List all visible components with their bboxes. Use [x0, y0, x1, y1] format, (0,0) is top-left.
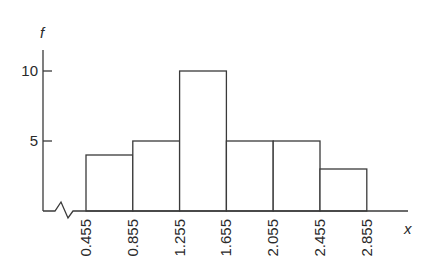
histogram-bar	[320, 169, 367, 211]
y-ticks: 510	[21, 62, 52, 149]
x-tick-label: 2.455	[311, 219, 328, 257]
y-tick-label: 5	[30, 132, 38, 149]
histogram-bar	[180, 71, 227, 211]
y-tick-label: 10	[21, 62, 38, 79]
histogram-bar	[86, 155, 133, 211]
histogram-bars	[86, 71, 367, 211]
x-tick-label: 0.455	[77, 219, 94, 257]
histogram-bar	[226, 141, 273, 211]
y-axis-label: f	[40, 24, 46, 41]
histogram-bar	[273, 141, 320, 211]
x-axis-break-zigzag	[43, 202, 86, 218]
x-tick-labels: 0.4550.8551.2551.6552.0552.4552.855	[77, 219, 375, 257]
histogram-chart: 510 0.4550.8551.2551.6552.0552.4552.855 …	[0, 0, 430, 275]
x-tick-label: 1.255	[171, 219, 188, 257]
x-tick-label: 2.855	[358, 219, 375, 257]
x-axis-label: x	[403, 220, 412, 237]
histogram-bar	[133, 141, 180, 211]
x-tick-label: 1.655	[217, 219, 234, 257]
x-tick-label: 0.855	[124, 219, 141, 257]
x-tick-label: 2.055	[264, 219, 281, 257]
